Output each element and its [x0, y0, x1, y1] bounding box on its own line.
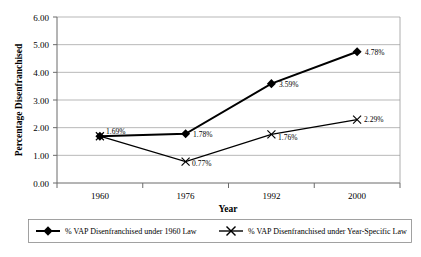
chart-canvas: 6.00 5.00 4.00 3.00 2.00 1.00 0.00 1960 …: [0, 0, 421, 257]
y-tick-label-6: 6.00: [33, 13, 49, 23]
data-label-year-specific-2000: 2.29%: [364, 115, 383, 124]
x-tick-label-2000: 2000: [348, 191, 367, 201]
y-tick-label-2: 2.00: [33, 123, 49, 133]
data-label-year-specific-1992: 1.76%: [278, 133, 297, 142]
x-tick-label-1992: 1992: [262, 191, 280, 201]
legend-label-1960-law: % VAP Disenfranchised under 1960 Law: [65, 227, 197, 236]
x-axis-title: Year: [219, 204, 239, 214]
x-tick-label-1976: 1976: [177, 191, 196, 201]
y-tick-label-4: 4.00: [33, 68, 49, 78]
line-chart: 6.00 5.00 4.00 3.00 2.00 1.00 0.00 1960 …: [0, 0, 421, 257]
legend-item-year-specific-law[interactable]: % VAP Disenfranchised under Year-Specifi…: [219, 227, 407, 237]
y-tick-label-0: 0.00: [33, 179, 49, 189]
data-label-1960-law-1992: 3.59%: [279, 80, 298, 89]
x-axis-ticks: [57, 183, 400, 188]
y-tick-label-3: 3.00: [33, 96, 49, 106]
y-tick-label-5: 5.00: [33, 40, 49, 50]
y-axis-ticks: [53, 17, 57, 183]
data-label-year-specific-1976: 0.77%: [192, 159, 211, 168]
y-axis-title: Percentage Disenfranchised: [14, 43, 24, 156]
data-label-1960-law-1976: 1.78%: [193, 130, 212, 139]
data-label-1960-law-1960: 1.69%: [106, 127, 125, 136]
data-label-1960-law-2000: 4.78%: [365, 48, 384, 57]
x-tick-label-1960: 1960: [91, 191, 110, 201]
legend-label-year-specific-law: % VAP Disenfranchised under Year-Specifi…: [248, 227, 407, 236]
y-tick-label-1: 1.00: [33, 151, 49, 161]
